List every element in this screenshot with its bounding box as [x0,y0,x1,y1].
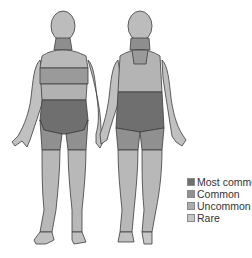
front-neck [54,38,72,50]
back-right-arm [162,60,186,146]
front-pelvis [40,100,88,134]
back-neck [130,38,150,50]
legend-label: Most common [197,176,252,188]
front-chest-band [40,68,88,84]
front-head [51,11,75,41]
legend-item-uncommon: Uncommon [187,200,252,212]
back-upper-thigh-left [116,128,140,150]
back-leg-left [118,150,138,232]
front-upper-chest [40,50,88,68]
rare-swatch [187,214,195,222]
front-abdomen [41,84,87,100]
back-upper-thigh-right [140,128,164,150]
back-leg-right [142,150,162,232]
most-common-swatch [187,178,195,186]
legend: Most common Common Uncommon Rare [187,176,252,224]
front-foot-right [72,232,86,244]
legend-label: Rare [197,212,220,224]
back-head [128,11,152,41]
front-leg-right [68,150,86,232]
legend-item-rare: Rare [187,212,252,224]
front-foot-left [34,232,54,244]
front-leg-left [40,150,60,232]
legend-item-most-common: Most common [187,176,252,188]
legend-item-common: Common [187,188,252,200]
back-figure [100,11,186,244]
front-figure [12,11,104,244]
back-buttocks [116,92,164,132]
legend-label: Common [197,188,240,200]
legend-label: Uncommon [197,200,251,212]
uncommon-swatch [187,202,195,210]
back-upper-center [132,50,148,64]
back-foot-right [142,232,152,244]
common-swatch [187,190,195,198]
back-foot-left [118,232,134,242]
